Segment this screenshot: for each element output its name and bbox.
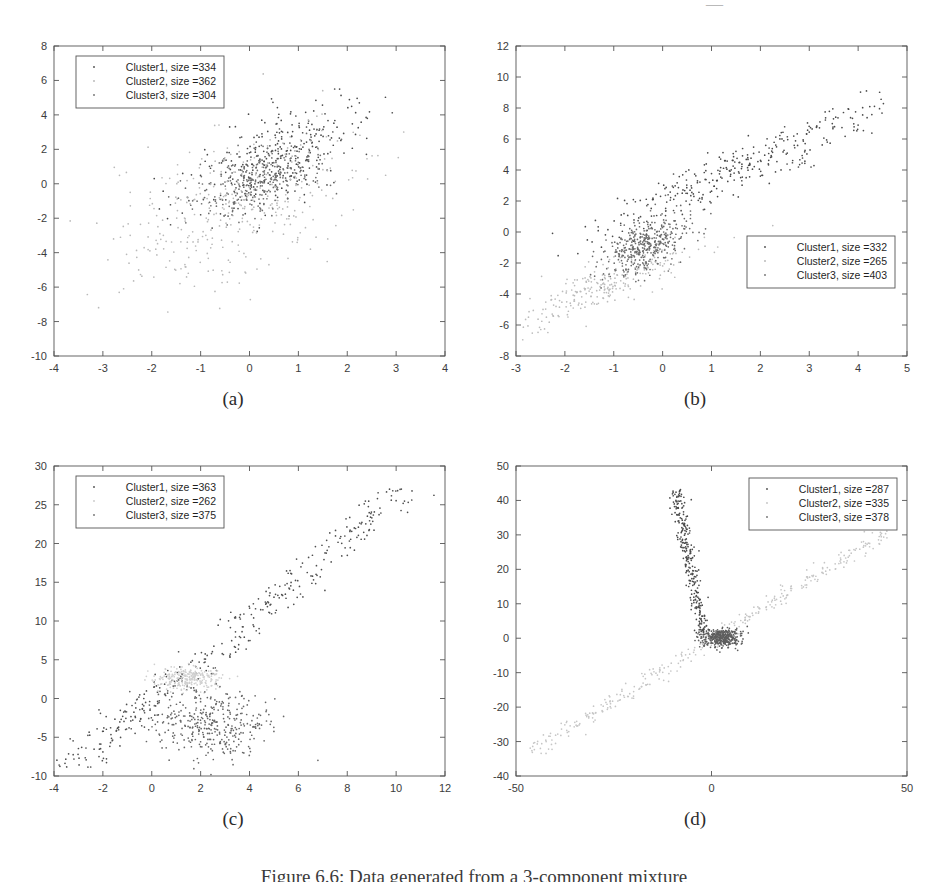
data-point [271, 203, 273, 205]
data-point [168, 723, 170, 725]
data-point [627, 277, 629, 279]
data-point [213, 709, 215, 711]
data-point [801, 585, 803, 587]
data-point [734, 621, 736, 623]
data-point [198, 672, 200, 674]
data-point [580, 308, 582, 310]
scatter-chart-c: -4-2024681012-10-5051015202530Cluster1, … [8, 456, 458, 808]
data-point [289, 179, 291, 181]
data-point [140, 274, 142, 276]
data-point [294, 150, 296, 152]
data-point [238, 169, 240, 171]
data-point [541, 320, 543, 322]
data-point [224, 734, 226, 736]
data-point [170, 204, 172, 206]
data-point [688, 571, 690, 573]
data-point [771, 148, 773, 150]
data-point [634, 240, 636, 242]
data-point [654, 233, 656, 235]
data-point [290, 582, 292, 584]
data-point [346, 554, 348, 556]
data-point [159, 691, 161, 693]
data-point [204, 671, 206, 673]
data-point [250, 751, 252, 753]
data-point [683, 496, 685, 498]
data-point [106, 762, 108, 764]
data-point [208, 727, 210, 729]
data-point [290, 150, 292, 152]
data-point [635, 281, 637, 283]
data-point [796, 133, 798, 135]
data-point [684, 525, 686, 527]
data-point [242, 626, 244, 628]
x-tick-label: 0 [246, 362, 252, 374]
data-point [603, 273, 605, 275]
data-point [698, 191, 700, 193]
data-point [249, 188, 251, 190]
data-point [320, 134, 322, 136]
data-point [166, 688, 168, 690]
data-point [685, 564, 687, 566]
data-point [704, 640, 706, 642]
data-point [268, 714, 270, 716]
data-point [244, 206, 246, 208]
data-point [253, 165, 255, 167]
data-point [246, 196, 248, 198]
data-point [316, 115, 318, 117]
data-point [411, 499, 413, 501]
data-point [675, 499, 677, 501]
data-point [238, 644, 240, 646]
data-point [689, 204, 691, 206]
data-point [153, 686, 155, 688]
data-point [213, 170, 215, 172]
data-point [555, 734, 557, 736]
data-point [617, 198, 619, 200]
data-point [697, 587, 699, 589]
data-point [173, 737, 175, 739]
data-point [345, 518, 347, 520]
data-point [180, 241, 182, 243]
data-point [673, 173, 675, 175]
data-point [202, 712, 204, 714]
data-point [753, 606, 755, 608]
data-point [559, 300, 561, 302]
data-point [177, 673, 179, 675]
data-point [698, 631, 700, 633]
data-point [592, 301, 594, 303]
data-point [713, 631, 715, 633]
data-point [314, 135, 316, 137]
data-point [689, 563, 691, 565]
data-point [170, 666, 172, 668]
data-point [277, 107, 279, 109]
data-point [681, 192, 683, 194]
data-point [232, 764, 234, 766]
data-point [263, 160, 265, 162]
data-point [306, 184, 308, 186]
y-tick-label: -10 [31, 350, 47, 362]
data-point [201, 673, 203, 675]
data-point [639, 232, 641, 234]
data-point [258, 224, 260, 226]
data-point [184, 747, 186, 749]
data-point [276, 215, 278, 217]
data-point [253, 143, 255, 145]
data-point [234, 735, 236, 737]
data-point [608, 261, 610, 263]
data-point [258, 227, 260, 229]
data-point [295, 160, 297, 162]
data-point [275, 179, 277, 181]
data-point [782, 585, 784, 587]
data-point [532, 751, 534, 753]
data-point [313, 110, 315, 112]
data-point [689, 530, 691, 532]
data-point [168, 707, 170, 709]
data-point [240, 205, 242, 207]
data-point [731, 636, 733, 638]
data-point [210, 229, 212, 231]
data-point [293, 147, 295, 149]
data-point [208, 213, 210, 215]
data-point [257, 723, 259, 725]
data-point [207, 739, 209, 741]
data-point [211, 675, 213, 677]
data-point [213, 186, 215, 188]
